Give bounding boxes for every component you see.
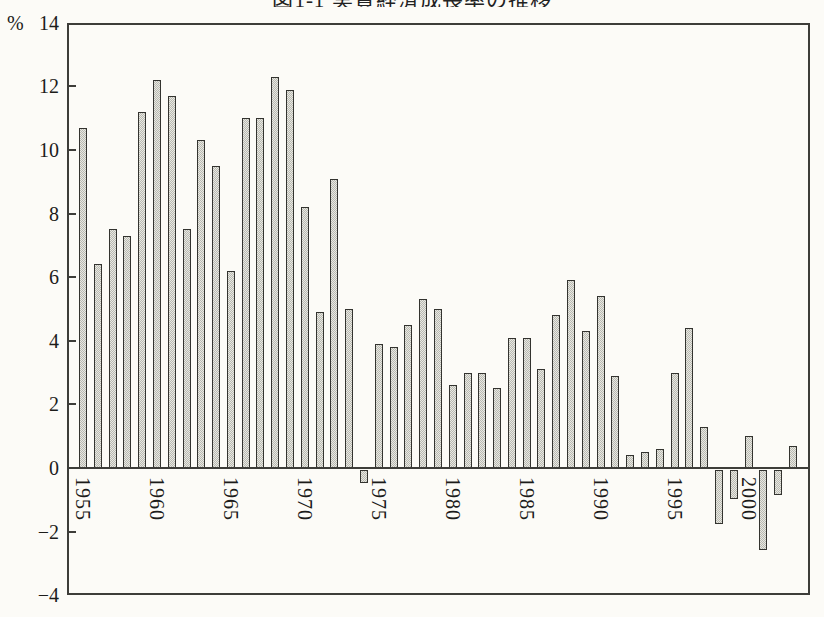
bar-1956 xyxy=(94,264,102,468)
bar-1982 xyxy=(478,373,486,468)
x-tick-label-1975: 1975 xyxy=(368,477,390,521)
bar-1957 xyxy=(109,229,117,468)
bar-1994 xyxy=(656,449,664,468)
bar-1964 xyxy=(212,166,220,468)
bar-2000 xyxy=(745,436,753,468)
y-axis-tick-mark xyxy=(69,403,76,405)
y-tick-label: 6 xyxy=(0,265,59,289)
bar-1966 xyxy=(242,118,250,468)
x-tick-label-1960: 1960 xyxy=(146,477,168,521)
plot-area: 1955196019651970197519801985199019952000 xyxy=(67,23,810,595)
y-tick-label: 12 xyxy=(0,74,59,98)
bar-1970 xyxy=(301,207,309,468)
bar-1996 xyxy=(685,328,693,468)
y-tick-label: −4 xyxy=(0,583,59,607)
x-tick-label-2000: 2000 xyxy=(738,477,760,521)
bar-1972 xyxy=(330,179,338,468)
bar-1983 xyxy=(493,388,501,468)
bar-1958 xyxy=(123,236,131,468)
bar-1993 xyxy=(641,452,649,468)
bar-2003 xyxy=(789,446,797,468)
bar-2001 xyxy=(759,470,767,550)
bar-1987 xyxy=(552,315,560,468)
y-tick-label: −2 xyxy=(0,520,59,544)
bar-1969 xyxy=(286,90,294,468)
x-tick-label-1965: 1965 xyxy=(220,477,242,521)
bar-1981 xyxy=(464,373,472,468)
bar-1979 xyxy=(434,309,442,468)
bar-1967 xyxy=(256,118,264,468)
x-tick-label-1985: 1985 xyxy=(516,477,538,521)
bar-1955 xyxy=(79,128,87,468)
bar-1961 xyxy=(168,96,176,468)
x-tick-label-1970: 1970 xyxy=(294,477,316,521)
bar-1985 xyxy=(523,338,531,468)
bar-1986 xyxy=(537,369,545,468)
clipped-chart-title: 図1-1 実質経済成長率の推移 xyxy=(0,0,824,7)
zero-baseline xyxy=(69,467,808,469)
y-tick-label: 14 xyxy=(0,11,59,35)
bar-1990 xyxy=(597,296,605,468)
bar-1977 xyxy=(404,325,412,468)
y-tick-label: 8 xyxy=(0,202,59,226)
x-tick-label-1990: 1990 xyxy=(590,477,612,521)
y-axis-tick-mark xyxy=(69,340,76,342)
y-axis-tick-mark xyxy=(69,149,76,151)
y-axis-tick-mark xyxy=(69,213,76,215)
y-tick-label: 0 xyxy=(0,456,59,480)
chart-title-text: 図1-1 実質経済成長率の推移 xyxy=(0,0,824,7)
y-axis-tick-mark xyxy=(69,531,76,533)
bar-1959 xyxy=(138,112,146,468)
bar-1991 xyxy=(611,376,619,468)
bar-1989 xyxy=(582,331,590,468)
bar-1976 xyxy=(390,347,398,468)
x-tick-label-1980: 1980 xyxy=(442,477,464,521)
y-tick-label: 10 xyxy=(0,138,59,162)
bar-1974 xyxy=(360,470,368,483)
bar-1975 xyxy=(375,344,383,468)
bar-1960 xyxy=(153,80,161,468)
bar-1971 xyxy=(316,312,324,468)
bar-1968 xyxy=(271,77,279,468)
bar-1995 xyxy=(671,373,679,468)
y-axis-tick-mark xyxy=(69,85,76,87)
bar-1963 xyxy=(197,140,205,468)
bar-1980 xyxy=(449,385,457,468)
bar-1997 xyxy=(700,427,708,468)
bar-1973 xyxy=(345,309,353,468)
bar-2002 xyxy=(774,470,782,495)
bar-1984 xyxy=(508,338,516,468)
y-tick-label: 4 xyxy=(0,329,59,353)
bar-1978 xyxy=(419,299,427,468)
y-tick-label: 2 xyxy=(0,392,59,416)
bar-1999 xyxy=(730,470,738,499)
bar-1965 xyxy=(227,271,235,468)
bar-1998 xyxy=(715,470,723,524)
bar-1962 xyxy=(183,229,191,468)
real-gdp-growth-bar-chart: 図1-1 実質経済成長率の推移 % 1955196019651970197519… xyxy=(0,0,824,617)
y-axis-tick-mark xyxy=(69,276,76,278)
bar-1988 xyxy=(567,280,575,468)
x-tick-label-1995: 1995 xyxy=(664,477,686,521)
y-axis-tick-mark xyxy=(69,467,76,469)
x-tick-label-1955: 1955 xyxy=(72,477,94,521)
